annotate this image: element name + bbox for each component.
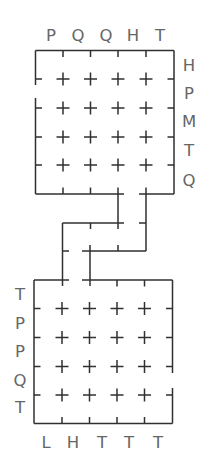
column-label: T [154,26,166,45]
row-label: P [15,314,25,333]
top-grid-row-labels: H P M T Q [182,56,196,190]
column-label: T [96,433,108,452]
row-label: T [183,141,195,160]
column-label: T [123,433,135,452]
top-grid-top-edge [36,51,175,58]
bottom-grid-right-edge [166,280,173,424]
column-label: L [41,433,51,452]
bottom-grid-top-edge [34,280,173,287]
row-label: P [15,342,25,361]
bottom-grid-left-edge [34,280,41,424]
column-label: Q [72,26,85,45]
connector-walls [63,194,147,286]
bottom-grid-intersections [56,302,152,402]
bottom-grid-column-labels: L H T T T [41,433,164,452]
column-label: T [152,433,164,452]
bottom-grid: T P P Q T L H T T T [14,280,173,452]
column-label: Q [100,26,113,45]
bottom-grid-bottom-edge [34,417,173,424]
row-label: P [184,84,194,103]
top-grid-column-labels: P Q Q H T [46,26,166,45]
top-grid: P Q Q H T H P M T Q [36,26,197,195]
row-label: H [183,56,195,75]
top-grid-intersections [57,73,153,172]
top-grid-right-edge [168,51,175,195]
puzzle-board: P Q Q H T H P M T Q T P P Q T [0,0,209,473]
row-label: Q [14,371,27,390]
row-label: M [182,112,196,131]
row-label: T [14,398,26,417]
column-label: H [127,26,139,45]
row-label: Q [183,171,196,190]
bottom-grid-row-labels: T P P Q T [14,285,27,417]
top-grid-bottom-edge [36,188,175,195]
top-grid-left-edge [36,51,43,195]
row-label: T [14,285,26,304]
column-label: H [67,433,79,452]
grid-connector [63,194,147,286]
column-label: P [46,26,56,45]
